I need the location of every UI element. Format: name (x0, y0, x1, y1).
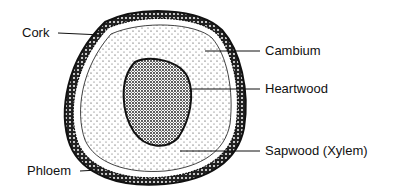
sapwood-label: Sapwood (Xylem) (265, 144, 368, 157)
heartwood-region (124, 59, 192, 146)
cambium-label: Cambium (265, 44, 321, 57)
heartwood-label: Heartwood (265, 82, 328, 95)
trunk-cross-section (0, 0, 397, 190)
phloem-label: Phloem (27, 164, 71, 177)
cork-label: Cork (22, 26, 49, 39)
